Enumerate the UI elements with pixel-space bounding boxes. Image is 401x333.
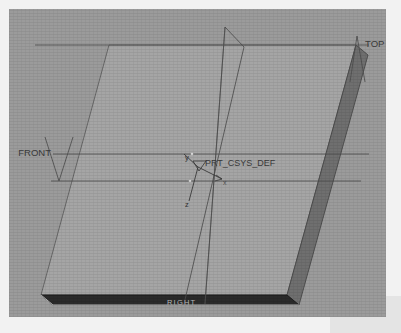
datum-right-label: RIGHT: [167, 298, 196, 307]
datum-top-label: TOP: [365, 38, 384, 49]
cad-3d-viewport[interactable]: TOP RIGHT FRONT: [9, 9, 386, 317]
cad-scene[interactable]: TOP RIGHT FRONT: [9, 9, 386, 317]
datum-front-label: FRONT: [18, 147, 51, 158]
csys-axis-label-x: x: [223, 179, 227, 186]
csys-axis-label-z: z: [185, 200, 189, 209]
vertex-dot: [191, 153, 194, 156]
datum-front-tag: [45, 137, 73, 181]
csys-axis-label-y: y: [185, 153, 189, 162]
csys-name-label: PRT_CSYS_DEF: [205, 158, 276, 168]
cad-screenshot-root: TOP RIGHT FRONT: [0, 0, 401, 333]
vertex-dot: [189, 180, 192, 183]
